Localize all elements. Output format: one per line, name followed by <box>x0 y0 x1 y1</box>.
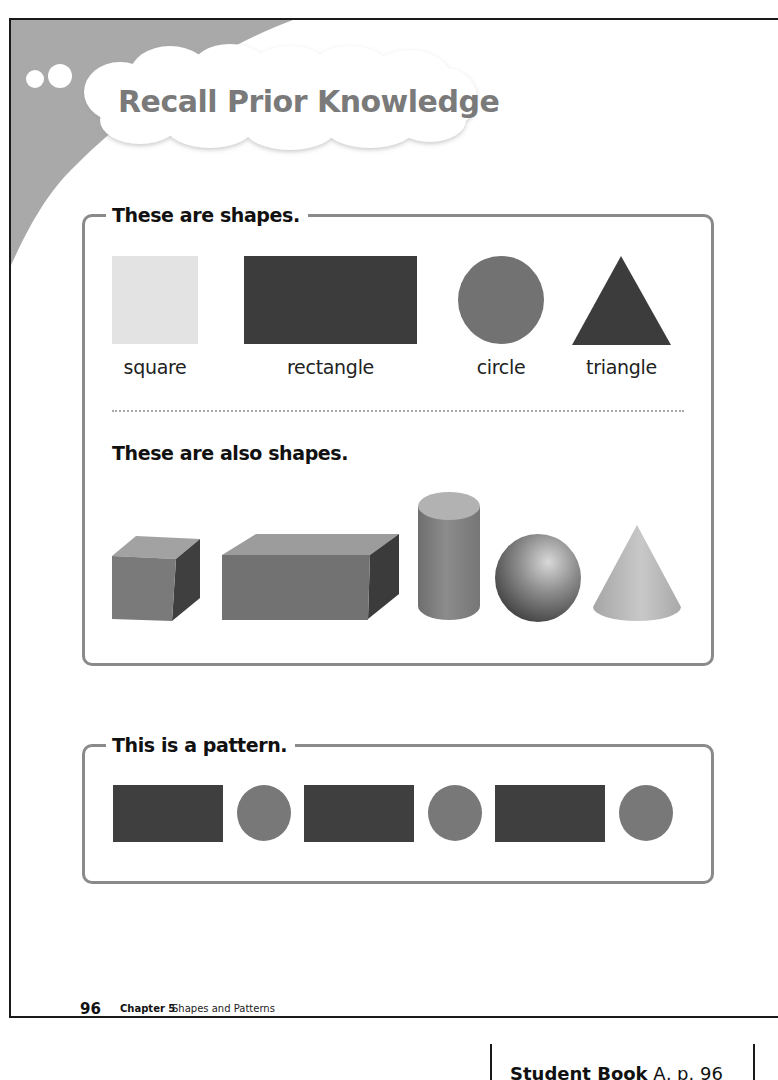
reference-book: Student Book <box>510 1063 648 1080</box>
footer-chapter: Chapter 5 <box>120 1003 175 1014</box>
cube-solid <box>112 536 204 622</box>
decorative-dot <box>26 70 44 88</box>
rectangular-prism-solid <box>222 534 400 622</box>
pattern-circle <box>237 785 291 841</box>
reference-text: Student Book A, p. 96 <box>510 1063 723 1080</box>
shapes-3d-heading: These are also shapes. <box>112 442 348 464</box>
triangle-label: triangle <box>572 356 671 378</box>
pattern-rectangle <box>304 785 414 842</box>
dotted-divider <box>112 410 684 412</box>
circle-label: circle <box>455 356 547 378</box>
square-label: square <box>108 356 202 378</box>
footer-chapter-title: Shapes and Patterns <box>172 1003 275 1014</box>
cylinder-solid <box>417 492 481 622</box>
rectangle-shape <box>244 256 417 344</box>
circle-shape <box>458 256 544 344</box>
pattern-circle <box>428 785 482 841</box>
pattern-rectangle <box>113 785 223 842</box>
triangle-shape <box>572 256 671 345</box>
page-title: Recall Prior Knowledge <box>118 84 499 119</box>
cone-solid <box>593 525 683 623</box>
pattern-circle <box>619 785 673 841</box>
decorative-dot <box>48 64 72 88</box>
pattern-rectangle <box>495 785 605 842</box>
page-number: 96 <box>80 1000 101 1018</box>
sphere-solid <box>494 533 582 623</box>
rectangle-label: rectangle <box>244 356 417 378</box>
square-shape <box>112 256 198 344</box>
reference-page: A, p. 96 <box>648 1063 723 1080</box>
pattern-heading: This is a pattern. <box>106 733 295 757</box>
shapes-2d-heading: These are shapes. <box>106 203 308 227</box>
